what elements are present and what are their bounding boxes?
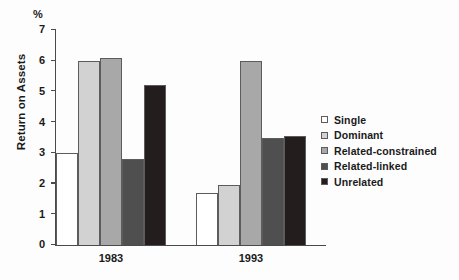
legend-swatch-related-constrained bbox=[321, 147, 328, 154]
y-tick-label: 7 bbox=[39, 24, 45, 35]
legend-label-related-linked: Related-linked bbox=[334, 160, 407, 172]
legend-item-unrelated[interactable]: Unrelated bbox=[321, 174, 437, 190]
bar-unrelated-1993 bbox=[284, 136, 306, 245]
bar-related-linked-1993 bbox=[262, 138, 284, 246]
y-tick-label: 3 bbox=[39, 147, 45, 158]
bar-unrelated-1983 bbox=[144, 85, 166, 245]
y-tick-label: 6 bbox=[39, 55, 45, 66]
bar-dominant-1983 bbox=[78, 61, 100, 245]
plot-area: 01234567 19831993 bbox=[56, 30, 284, 245]
legend-swatch-related-linked bbox=[321, 163, 328, 170]
legend-swatch-unrelated bbox=[321, 178, 328, 185]
y-axis-title: Return on Assets bbox=[15, 27, 27, 177]
legend-label-related-constrained: Related-constrained bbox=[334, 145, 437, 157]
legend-label-dominant: Dominant bbox=[334, 129, 383, 141]
bar-related-constrained-1983 bbox=[100, 58, 122, 245]
legend-label-unrelated: Unrelated bbox=[334, 176, 383, 188]
bar-group-1993 bbox=[196, 30, 306, 245]
bar-single-1983 bbox=[56, 153, 78, 245]
bar-related-constrained-1993 bbox=[240, 61, 262, 245]
y-tick-label: 4 bbox=[39, 116, 45, 127]
chart-legend: SingleDominantRelated-constrainedRelated… bbox=[321, 112, 437, 190]
legend-label-single: Single bbox=[334, 114, 366, 126]
y-tick-label: 1 bbox=[39, 208, 45, 219]
y-tick-label: 5 bbox=[39, 85, 45, 96]
legend-swatch-single bbox=[321, 116, 328, 123]
x-axis-label-1983: 1983 bbox=[56, 252, 166, 264]
bar-group-1983 bbox=[56, 30, 166, 245]
x-axis-label-1993: 1993 bbox=[196, 252, 306, 264]
y-tick-label: 0 bbox=[39, 239, 45, 250]
y-axis-unit-label: % bbox=[33, 8, 43, 20]
bar-single-1993 bbox=[196, 193, 218, 245]
legend-item-dominant[interactable]: Dominant bbox=[321, 128, 437, 144]
bar-dominant-1993 bbox=[218, 185, 240, 245]
bar-related-linked-1983 bbox=[122, 159, 144, 245]
legend-item-single[interactable]: Single bbox=[321, 112, 437, 128]
chart-figure: % Return on Assets 01234567 19831993 Sin… bbox=[0, 0, 459, 280]
legend-item-related-linked[interactable]: Related-linked bbox=[321, 159, 437, 175]
legend-swatch-dominant bbox=[321, 132, 328, 139]
legend-item-related-constrained[interactable]: Related-constrained bbox=[321, 143, 437, 159]
y-tick-label: 2 bbox=[39, 177, 45, 188]
